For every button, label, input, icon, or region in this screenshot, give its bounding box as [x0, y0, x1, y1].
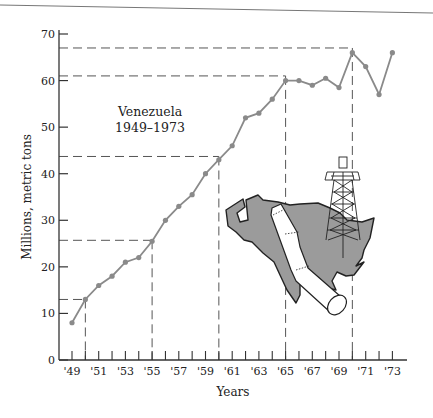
data-point — [203, 171, 208, 176]
data-point — [283, 78, 288, 83]
data-point — [243, 115, 248, 120]
data-point — [136, 255, 141, 260]
data-point — [83, 297, 88, 302]
x-tick-label: '73 — [384, 365, 401, 378]
x-tick-label: '59 — [197, 365, 214, 378]
x-tick-label: '69 — [330, 365, 347, 378]
oil-production-chart: 010203040506070 '49'51'53'55'57'59'61'63… — [0, 0, 433, 418]
data-point — [376, 92, 381, 97]
x-tick-label: '57 — [170, 365, 187, 378]
y-tick-label: 70 — [41, 28, 55, 41]
y-tick-label: 10 — [41, 307, 55, 320]
x-tick-label: '55 — [144, 365, 161, 378]
chart-annotation-country: Venezuela — [117, 104, 183, 119]
y-tick-label: 0 — [48, 354, 55, 367]
x-tick-label: '51 — [90, 365, 107, 378]
data-point — [390, 50, 395, 55]
data-point — [163, 218, 168, 223]
data-point — [296, 78, 301, 83]
data-point — [96, 283, 101, 288]
chart-canvas: 010203040506070 '49'51'53'55'57'59'61'63… — [0, 0, 433, 418]
data-line — [72, 53, 392, 323]
x-axis-title: Years — [215, 385, 249, 399]
venezuela-map-illustration — [226, 157, 374, 319]
x-tick-label: '65 — [277, 365, 294, 378]
data-point — [363, 64, 368, 69]
chart-annotation-years: 1949–1973 — [115, 120, 185, 135]
data-point — [323, 76, 328, 81]
x-tick-label: '49 — [63, 365, 80, 378]
data-point — [190, 192, 195, 197]
data-point — [109, 274, 114, 279]
x-ticks: '49'51'53'55'57'59'61'63'65'67'69'71'73 — [63, 351, 400, 378]
y-ticks: 010203040506070 — [41, 28, 68, 367]
y-tick-label: 20 — [41, 261, 55, 274]
data-point — [176, 204, 181, 209]
y-tick-label: 60 — [41, 75, 55, 88]
y-tick-label: 40 — [41, 168, 55, 181]
data-point — [336, 85, 341, 90]
data-point — [270, 97, 275, 102]
data-point — [69, 320, 74, 325]
page-rule — [0, 5, 433, 13]
x-tick-label: '67 — [304, 365, 321, 378]
y-axis-title: Millions, metric tons — [20, 134, 34, 260]
data-point — [216, 157, 221, 162]
x-tick-label: '71 — [357, 365, 374, 378]
data-point — [230, 143, 235, 148]
x-tick-label: '63 — [250, 365, 267, 378]
data-point — [256, 111, 261, 116]
data-point — [350, 50, 355, 55]
y-tick-label: 50 — [41, 121, 55, 134]
data-point — [150, 239, 155, 244]
data-point — [123, 260, 128, 265]
x-tick-label: '61 — [224, 365, 241, 378]
x-tick-label: '53 — [117, 365, 134, 378]
y-tick-label: 30 — [41, 214, 55, 227]
data-point — [310, 83, 315, 88]
